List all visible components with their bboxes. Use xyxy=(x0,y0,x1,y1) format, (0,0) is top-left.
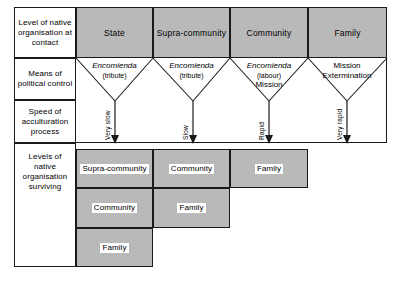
control-supra-community-line1: Encomienda xyxy=(153,61,230,71)
speed-family-label: Very rapid xyxy=(336,109,343,140)
speed-state: Very slow xyxy=(104,110,111,140)
surviving-1-family-label: Family xyxy=(100,243,128,253)
speed-supra-community: Slow xyxy=(182,125,189,140)
header-community-label: Community xyxy=(247,28,292,38)
control-family-line2: Extermination xyxy=(307,71,387,81)
speed-community-label: Rapid xyxy=(258,122,265,140)
control-community: Encomienda (labour) Mission xyxy=(230,61,308,90)
surviving-1-supra-community: Supra-community xyxy=(76,149,153,188)
row-label-contact: Level of native organisation at contact xyxy=(14,7,76,58)
control-state-line2: (tribute) xyxy=(76,71,153,81)
control-family: Mission Extermination xyxy=(307,61,387,80)
control-state-line1: Encomienda xyxy=(76,61,153,71)
header-family-label: Family xyxy=(334,28,360,38)
diagram-canvas: Level of native organisation at contact … xyxy=(0,0,399,282)
speed-community: Rapid xyxy=(258,122,265,140)
surviving-3-family-label: Family xyxy=(255,164,283,174)
header-supra-community-label: Supra-community xyxy=(157,28,227,38)
speed-state-label: Very slow xyxy=(104,110,111,140)
control-community-line3: Mission xyxy=(230,80,308,90)
row-label-speed: Speed of acculturation process xyxy=(14,100,76,143)
surviving-1-community: Community xyxy=(76,188,153,228)
surviving-1-family: Family xyxy=(76,228,153,267)
row-label-control: Means of political control xyxy=(14,58,76,100)
surviving-2-family-label: Family xyxy=(177,203,205,213)
surviving-2-community: Community xyxy=(153,149,230,188)
speed-supra-community-label: Slow xyxy=(182,125,189,140)
control-family-line1: Mission xyxy=(307,61,387,71)
row-label-contact-text: Level of native organisation at contact xyxy=(17,18,73,48)
surviving-1-community-label: Community xyxy=(92,203,137,213)
header-family: Family xyxy=(308,7,387,58)
surviving-2-community-label: Community xyxy=(169,164,214,174)
row-label-control-text: Means of political control xyxy=(17,69,73,89)
speed-family: Very rapid xyxy=(336,109,343,140)
control-community-line1: Encomienda xyxy=(230,61,308,71)
control-supra-community: Encomienda (tribute) xyxy=(153,61,230,80)
row-label-surviving: Levels of native organisation surviving xyxy=(14,143,76,267)
surviving-1-supra-community-label: Supra-community xyxy=(80,164,148,174)
control-state: Encomienda (tribute) xyxy=(76,61,153,80)
header-supra-community: Supra-community xyxy=(153,7,230,58)
header-state-label: State xyxy=(104,28,125,38)
header-state: State xyxy=(76,7,153,58)
row-label-surviving-text: Levels of native organisation surviving xyxy=(17,152,73,192)
header-community: Community xyxy=(230,7,308,58)
surviving-3-family: Family xyxy=(230,149,308,188)
control-community-line2: (labour) xyxy=(230,71,308,81)
row-label-speed-text: Speed of acculturation process xyxy=(17,107,73,137)
control-supra-community-line2: (tribute) xyxy=(153,71,230,81)
surviving-2-family: Family xyxy=(153,188,230,228)
